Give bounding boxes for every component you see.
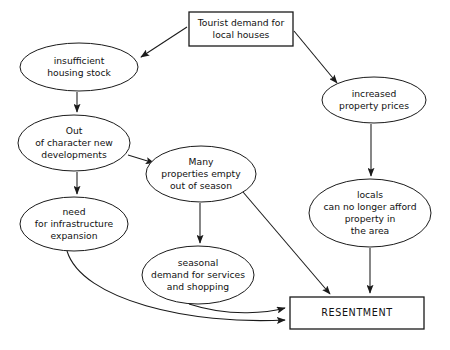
node-out-of-character-new-developments[interactable]: Outof character newdevelopments — [18, 115, 130, 171]
node-label-line: property in — [345, 213, 396, 224]
node-label-line: of character new — [35, 137, 113, 148]
node-label-line: locals — [357, 189, 383, 200]
edge-tourist-to-prices — [294, 31, 337, 83]
node-label-line: for infrastructure — [35, 218, 114, 229]
node-tourist-demand[interactable]: Tourist demand forlocal houses — [189, 12, 293, 46]
node-label-line: properties empty — [161, 168, 241, 179]
node-label-line: out of season — [170, 180, 232, 191]
edge-outofcharacter-to-many — [128, 155, 154, 163]
node-label-line: local houses — [213, 29, 270, 40]
node-label-line: Out — [66, 125, 83, 136]
node-need-for-infrastructure-expansion[interactable]: needfor infrastructureexpansion — [20, 197, 128, 251]
node-label-line: and shopping — [167, 281, 229, 292]
node-label-insufficient-housing-stock: insufficienthousing stock — [47, 55, 111, 78]
node-label-line: can no longer afford — [324, 201, 417, 212]
node-increased-property-prices[interactable]: increasedproperty prices — [322, 77, 426, 123]
node-seasonal-demand[interactable]: seasonaldemand for servicesand shopping — [142, 246, 254, 304]
node-label-line: housing stock — [47, 67, 111, 78]
node-label-line: Many — [189, 156, 214, 167]
node-locals-cannot-afford[interactable]: localscan no longer affordproperty inthe… — [309, 179, 431, 247]
node-label-line: the area — [351, 225, 390, 236]
node-insufficient-housing-stock[interactable]: insufficienthousing stock — [20, 43, 138, 91]
node-label-line: need — [63, 206, 86, 217]
node-label-line: Tourist demand for — [197, 17, 285, 28]
flowchart-diagram: Tourist demand forlocal housesinsufficie… — [0, 0, 450, 350]
node-label-line: property prices — [339, 100, 409, 111]
diagram-canvas: Tourist demand forlocal housesinsufficie… — [0, 0, 450, 350]
edge-tourist-to-insufficient — [141, 27, 187, 57]
edge-seasonal-to-resentment — [189, 304, 285, 313]
node-label-line: insufficient — [54, 55, 105, 66]
node-many-properties-empty[interactable]: Manyproperties emptyout of season — [146, 146, 256, 202]
node-label-line: RESENTMENT — [321, 307, 392, 318]
node-resentment[interactable]: RESENTMENT — [290, 297, 424, 329]
node-label-line: demand for services — [151, 269, 245, 280]
node-label-resentment: RESENTMENT — [321, 307, 392, 318]
node-label-line: increased — [352, 88, 397, 99]
node-label-line: developments — [41, 149, 107, 160]
node-label-line: seasonal — [178, 257, 218, 268]
node-layer: Tourist demand forlocal housesinsufficie… — [18, 12, 431, 329]
node-label-line: expansion — [51, 230, 98, 241]
